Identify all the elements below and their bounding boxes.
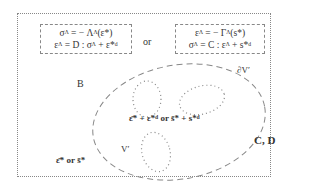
inclusion-1 (133, 81, 161, 117)
eq-right-line2: σᴬ = C : εᴬ + s*ᵈ (182, 39, 258, 51)
region-b-label: B (77, 78, 84, 89)
inclusion-3 (137, 129, 174, 175)
eq-left-line2: εᴬ = D : σᴬ + ε*ᵈ (47, 39, 125, 51)
eq-right-line1: εᴬ = − Γᴬ(s*) (182, 27, 258, 39)
far-field-label: ε̄* or s̄* (56, 155, 85, 165)
compliance-form-equations: σᴬ = − Λᴬ(ε*) εᴬ = D : σᴬ + ε*ᵈ (40, 24, 132, 54)
volume-label: V′ (121, 144, 129, 154)
eq-left-line1: σᴬ = − Λᴬ(ε*) (47, 27, 125, 39)
region-cd-label: C, D (254, 134, 275, 146)
or-label: or (143, 36, 151, 47)
boundary-label: ∂V′ (237, 65, 250, 75)
stiffness-form-equations: εᴬ = − Γᴬ(s*) σᴬ = C : εᴬ + s*ᵈ (175, 24, 265, 54)
inner-field-label: ε̄* + ε*ᵈ or s̄* + s*ᵈ (129, 113, 200, 123)
